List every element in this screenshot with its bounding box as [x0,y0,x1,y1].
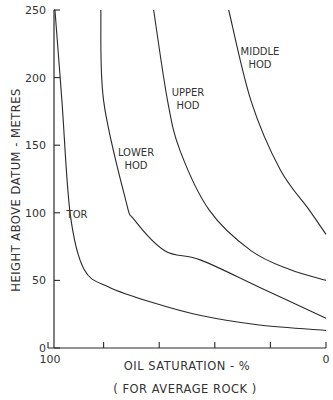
curve-labels: TORLOWERHODUPPERHODMIDDLEHOD [66,46,280,220]
y-tick-label: 50 [32,274,46,287]
y-tick-label: 100 [25,207,46,220]
axes [48,10,326,348]
curve-label-upper-hod: HOD [176,100,199,111]
curve-label-lower-hod: LOWER [118,147,154,158]
x-tick-label: 0 [323,353,330,366]
curve-label-upper-hod: UPPER [172,87,205,98]
curve-middle-hod [229,10,326,234]
curve-label-tor: TOR [66,209,88,220]
curve-tor [55,10,326,330]
chart: 050100150200250 1000 TORLOWERHODUPPERHOD… [0,0,333,400]
y-axis-title: HEIGHT ABOVE DATUM - METRES [9,88,23,291]
y-ticks: 050100150200250 [25,4,60,355]
curve-label-middle-hod: MIDDLE [241,46,280,57]
y-tick-label: 150 [25,139,46,152]
x-tick-label: 100 [40,353,61,366]
x-axis-title: OIL SATURATION - % [124,359,250,373]
x-axis-subtitle: ( FOR AVERAGE ROCK ) [113,382,257,396]
y-tick-label: 250 [25,4,46,17]
y-tick-label: 200 [25,72,46,85]
curve-label-middle-hod: HOD [248,59,271,70]
curves [54,10,326,330]
curve-label-lower-hod: HOD [124,160,147,171]
